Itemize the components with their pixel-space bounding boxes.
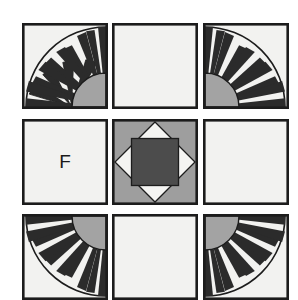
quilt-block-r2c1[interactable] bbox=[112, 214, 198, 300]
sun-block-top-right-icon bbox=[24, 216, 106, 298]
sun-block-bottom-left-icon bbox=[205, 25, 287, 107]
sun-block-top-left-icon bbox=[205, 216, 287, 298]
quilt-block-r0c1[interactable] bbox=[112, 23, 198, 109]
plain-block-icon bbox=[114, 25, 196, 107]
quilt-block-r2c0[interactable] bbox=[22, 214, 108, 300]
block-letter-label: F bbox=[24, 121, 106, 203]
quilt-block-r1c1[interactable] bbox=[112, 119, 198, 205]
quilt-block-r0c0[interactable] bbox=[22, 23, 108, 109]
plain-block-icon bbox=[114, 216, 196, 298]
square-in-square-block-icon bbox=[114, 121, 196, 203]
quilt-block-r0c2[interactable] bbox=[203, 23, 289, 109]
plain-block-icon bbox=[205, 121, 287, 203]
sun-block-bottom-right-icon bbox=[24, 25, 106, 107]
quilt-block-r1c0[interactable]: F bbox=[22, 119, 108, 205]
quilt-block-r2c2[interactable] bbox=[203, 214, 289, 300]
quilt-block-r1c2[interactable] bbox=[203, 119, 289, 205]
